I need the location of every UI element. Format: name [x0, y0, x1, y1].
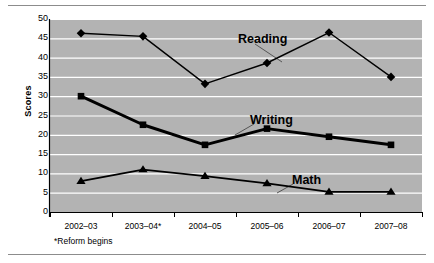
series-label-writing: Writing	[250, 113, 293, 127]
chart-footnote: *Reform begins	[54, 236, 113, 246]
x-axis-tick-label: 2003–04*	[109, 221, 177, 231]
x-axis-tick-label: 2004–05	[171, 221, 239, 231]
chart-figure: Scores 05101520253035404550 2002–032003–…	[0, 0, 434, 263]
x-axis-tick-label: 2005–06	[233, 221, 301, 231]
series-label-reading: Reading	[238, 32, 287, 46]
x-axis-tick-label: 2002–03	[47, 221, 115, 231]
x-axis-tick-labels: 2002–032003–04*2004–052005–062006–072007…	[0, 0, 434, 263]
series-label-math: Math	[292, 173, 321, 187]
x-axis-tick-label: 2007–08	[357, 221, 425, 231]
x-axis-tick-label: 2006–07	[295, 221, 363, 231]
